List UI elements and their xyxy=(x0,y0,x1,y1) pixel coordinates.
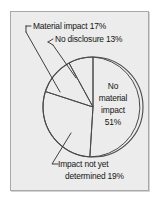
label-material-impact: Material impact 17% xyxy=(33,21,107,31)
label-no-material-impact-line1: No xyxy=(108,81,119,91)
leader-line-no-disclosure xyxy=(48,39,53,45)
label-no-material-impact-line2: material xyxy=(99,93,128,103)
pie-chart-figure: Material impact 17% No disclosure 13% No… xyxy=(0,0,164,209)
label-impact-not-yet-determined-line1: Impact not yet xyxy=(58,159,109,169)
pie-chart-svg: Material impact 17% No disclosure 13% No… xyxy=(0,0,164,209)
pie-slice-impact-not-yet-determined xyxy=(43,92,93,157)
label-no-material-impact-line3: impact xyxy=(101,105,126,115)
pie-slice-material-impact xyxy=(69,57,93,107)
label-no-disclosure: No disclosure 13% xyxy=(55,34,123,44)
label-no-material-impact-line4: 51% xyxy=(105,117,122,127)
label-impact-not-yet-determined-line2: determined 19% xyxy=(65,171,125,181)
leader-line-material-impact xyxy=(26,26,31,32)
pie-slice-no-disclosure xyxy=(45,63,93,107)
